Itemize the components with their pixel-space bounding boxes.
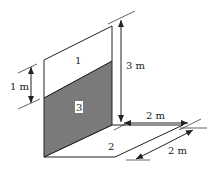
dim-2m-depth-arrow-down (136, 145, 164, 159)
dim-2m-width-label: 2 m (146, 110, 166, 121)
surface-1-label: 1 (75, 55, 81, 66)
dim-1m-extension-top (18, 64, 37, 73)
surface-3-label: 3 (76, 102, 82, 113)
dim-2m-depth-label: 2 m (168, 145, 188, 156)
dim-1m-extension-bottom (18, 99, 40, 109)
dim-3m-label: 3 m (126, 60, 146, 71)
surface-2-label: 2 (108, 141, 114, 152)
view-factor-diagram: 3 m 1 m 2 m 2 m 1 3 2 (0, 0, 219, 175)
dim-1m-label: 1 m (10, 81, 30, 92)
